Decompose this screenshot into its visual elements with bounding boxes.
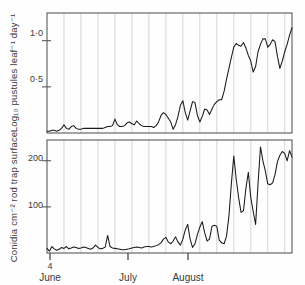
bottom-ytick-label-0: 100 xyxy=(28,200,43,210)
xtick-label-july: July xyxy=(119,272,137,283)
epidemic-progress-figure: 1·0 0·5 Log₁₀ pustules leaf⁻¹ day⁻¹ 200 … xyxy=(0,0,305,285)
top-ytick-label-1: 1·0 xyxy=(30,28,43,38)
xtick-label-august: August xyxy=(172,272,203,283)
panel-pustules: 1·0 0·5 Log₁₀ pustules leaf⁻¹ day⁻¹ xyxy=(8,13,292,133)
pustules-series-line xyxy=(47,28,292,131)
xtick-label-day: 4 xyxy=(47,261,52,271)
top-panel-frame xyxy=(47,13,292,133)
bottom-panel-frame xyxy=(47,140,292,253)
bottom-ytick-label-1: 200 xyxy=(28,153,43,163)
bottom-panel-gridlines xyxy=(64,140,285,253)
top-panel-y-axis-title: Log₁₀ pustules leaf⁻¹ day⁻¹ xyxy=(8,14,19,133)
x-axis: 4 June July August xyxy=(39,253,204,283)
top-panel-gridlines xyxy=(64,13,285,133)
xtick-label-june: June xyxy=(39,272,61,283)
bottom-panel-y-axis-title: Conidia cm⁻² rod trap surface xyxy=(8,132,19,263)
conidia-series-line xyxy=(47,147,292,251)
panel-conidia: 200 100 Conidia cm⁻² rod trap surface xyxy=(8,132,292,263)
top-ytick-label-0: 0·5 xyxy=(30,74,43,84)
